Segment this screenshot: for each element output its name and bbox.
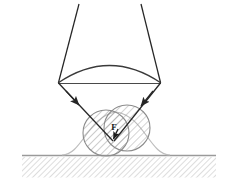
substrate-ground-group (22, 156, 216, 179)
optics-diagram-figure: F (0, 0, 238, 188)
incoming-ray-left (59, 4, 80, 83)
diagram-canvas: F (0, 0, 238, 188)
converging-lens-group (58, 66, 161, 84)
focused-ray-right-arrowhead (141, 91, 153, 106)
focused-ray-left-arrowhead (66, 91, 79, 105)
ground-hatch-fill (22, 157, 216, 178)
lens-upper-arc (58, 66, 161, 84)
incoming-ray-right (141, 4, 161, 83)
force-label: F (111, 122, 117, 132)
